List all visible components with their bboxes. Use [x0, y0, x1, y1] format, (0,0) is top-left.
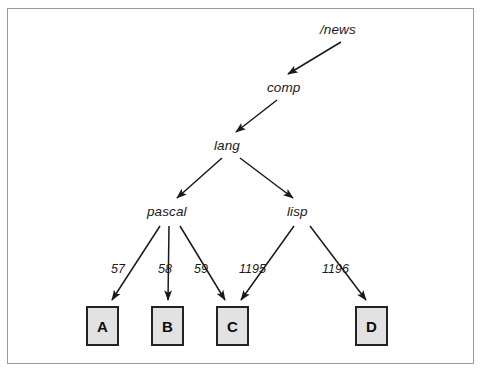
edge-label-58: 58 [158, 262, 172, 276]
edge-label-57: 57 [111, 262, 125, 276]
leaf-box-a: A [86, 306, 119, 346]
leaf-label-d: D [366, 318, 377, 335]
diagram-canvas: /news comp lang pascal lisp 57 58 59 119… [0, 0, 480, 372]
leaf-label-b: B [162, 318, 173, 335]
edge-label-1195: 1195 [239, 262, 266, 276]
edge-comp-to-lang [236, 100, 277, 132]
edge-lang-to-pascal [177, 158, 222, 198]
node-lisp: lisp [287, 204, 308, 219]
leaf-box-b: B [151, 306, 184, 346]
leaf-box-d: D [355, 306, 388, 346]
leaf-label-a: A [97, 318, 108, 335]
edge-label-1196: 1196 [322, 262, 349, 276]
node-pascal: pascal [147, 204, 187, 219]
leaf-box-c: C [216, 306, 249, 346]
edge-label-59: 59 [194, 262, 208, 276]
edge-lang-to-lisp [240, 158, 293, 198]
node-lang: lang [214, 138, 240, 153]
edge-news-to-comp [288, 42, 341, 74]
leaf-label-c: C [227, 318, 238, 335]
node-comp: comp [267, 80, 300, 95]
node-news: /news [320, 22, 356, 37]
